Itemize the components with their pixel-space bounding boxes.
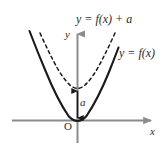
shift-amount-label: a (80, 97, 86, 108)
x-axis-label: x (150, 126, 155, 137)
base-curve-label: y = f(x) (119, 47, 155, 59)
shifted-curve-label: y = f(x) + a (76, 13, 132, 25)
base-parabola-curve (30, 31, 119, 121)
origin-label: O (64, 121, 72, 132)
graph-figure: y = f(x) + a y = f(x) y x O a (0, 0, 167, 152)
y-axis-label: y (65, 29, 70, 40)
